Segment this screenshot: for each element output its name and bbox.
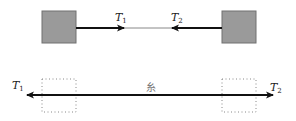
right-block <box>222 11 256 43</box>
label-t1: T1 <box>12 79 24 93</box>
label-t2: T2 <box>171 11 183 25</box>
tension-diagram: T1 T2 糸 T1 T2 <box>0 0 296 121</box>
bottom-scene: 糸 T1 T2 <box>12 79 282 112</box>
string-label: 糸 <box>146 82 156 93</box>
left-block <box>42 11 76 43</box>
label-t1: T1 <box>115 11 127 25</box>
label-t2: T2 <box>270 81 282 95</box>
top-scene: T1 T2 <box>42 11 256 43</box>
